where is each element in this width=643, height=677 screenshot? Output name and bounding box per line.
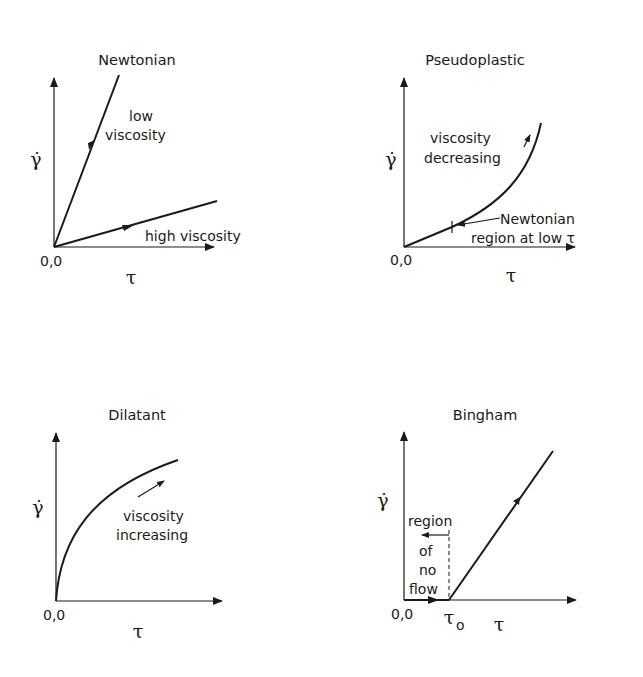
y-axis-symbol: γ̇ [32,496,43,518]
annotation-viscosity: viscosity [105,127,166,143]
low-viscosity-line [54,75,119,247]
bingham-line [449,451,553,600]
panel-title: Dilatant [108,407,166,423]
origin-label: 0,0 [43,607,65,623]
x-axis-symbol: τ [133,620,144,642]
annotation-viscosity: viscosity [123,508,184,524]
yield-stress-subscript: o [456,617,465,633]
panel-title: Pseudoplastic [425,52,525,68]
arrow-icon [122,225,134,231]
rheology-diagram: Newtonian low viscosity high viscosity 0… [0,0,643,677]
origin-label: 0,0 [390,252,412,268]
annotation-decreasing: decreasing [424,150,501,166]
panel-bingham: Bingham region of no flow 0,0 τ o τ γ̇ [377,407,576,635]
y-axis-symbol: γ̇ [377,489,388,511]
panel-dilatant: Dilatant viscosity increasing 0,0 τ γ̇ [32,407,222,642]
yield-stress-symbol: τ [444,606,455,628]
annotation-no: no [419,562,436,578]
annotation-flow: flow [409,581,438,597]
panel-title: Newtonian [98,52,175,68]
x-axis-symbol: τ [126,266,137,288]
y-axis-symbol: γ̇ [30,148,41,170]
annotation-of: of [419,543,434,559]
arrow-icon [428,596,439,604]
panel-pseudoplastic: Pseudoplastic viscosity decreasing Newto… [385,52,575,286]
origin-label: 0,0 [40,253,62,269]
x-axis-symbol: τ [506,264,517,286]
annotation-newtonian: Newtonian [500,211,575,227]
y-axis-symbol: γ̇ [385,148,396,170]
annotation-low: low [129,108,153,124]
arrow-icon [524,135,530,147]
annotation-region-low-tau: region at low τ [471,230,575,246]
panel-title: Bingham [453,407,518,423]
arrow-icon [138,481,164,497]
origin-label: 0,0 [391,606,413,622]
annotation-increasing: increasing [116,527,188,543]
annotation-region: region [408,513,452,529]
panel-newtonian: Newtonian low viscosity high viscosity 0… [30,52,240,288]
annotation-high-viscosity: high viscosity [145,228,241,244]
x-axis-symbol: τ [494,613,505,635]
annotation-viscosity: viscosity [430,130,491,146]
